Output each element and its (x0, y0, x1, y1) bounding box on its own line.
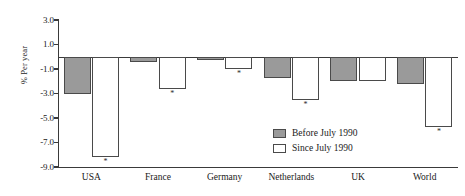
bar-before-july-1990 (197, 57, 224, 61)
y-tick-mark (54, 44, 59, 45)
bar-before-july-1990 (397, 57, 424, 84)
y-tick-label: 3.0 (10, 16, 54, 25)
legend: Before July 1990 Since July 1990 (273, 126, 405, 156)
x-axis-line (58, 167, 458, 168)
bar-since-july-1990 (292, 57, 319, 100)
y-tick-mark (54, 166, 59, 167)
y-tick-mark (54, 19, 59, 20)
bar-since-july-1990 (92, 57, 119, 157)
y-axis-tick-labels: 3.0 1.0 -1.0 -3.0 -5.0 -7.0 -9.0 (10, 0, 54, 196)
bar-since-july-1990 (225, 57, 252, 69)
y-tick-label: 1.0 (10, 40, 54, 49)
bar-before-july-1990 (264, 57, 291, 78)
y-tick-mark (54, 117, 59, 118)
legend-item-label: Before July 1990 (292, 128, 357, 139)
legend-item-before: Before July 1990 (273, 126, 405, 141)
bar-chart: % Per year 3.0 1.0 -1.0 -3.0 -5.0 -7.0 -… (0, 0, 465, 196)
significance-marker: * (292, 101, 319, 109)
bar-since-july-1990 (425, 57, 452, 127)
significance-marker: * (225, 70, 252, 78)
legend-item-label: Since July 1990 (292, 143, 353, 154)
significance-marker: * (425, 128, 452, 136)
y-tick-mark (54, 68, 59, 69)
bar-before-july-1990 (64, 57, 91, 94)
y-tick-mark (54, 93, 59, 94)
significance-marker: * (92, 158, 119, 166)
y-tick-label: -3.0 (10, 89, 54, 98)
y-tick-mark (54, 142, 59, 143)
bar-since-july-1990 (159, 57, 186, 89)
bar-before-july-1990 (130, 57, 157, 62)
legend-item-since: Since July 1990 (273, 141, 405, 156)
bar-since-july-1990 (359, 57, 386, 82)
legend-swatch-icon (273, 129, 286, 138)
y-tick-label: -7.0 (10, 138, 54, 147)
y-tick-label: -1.0 (10, 65, 54, 74)
y-tick-label: -5.0 (10, 114, 54, 123)
legend-swatch-icon (273, 144, 286, 153)
significance-marker: * (159, 90, 186, 98)
y-tick-label: -9.0 (10, 163, 54, 172)
bar-before-july-1990 (330, 57, 357, 82)
x-category-label: World (385, 172, 465, 183)
